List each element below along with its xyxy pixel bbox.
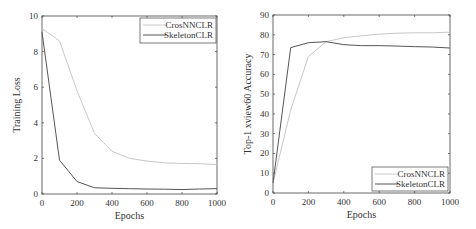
y-tick-label: 4 [34, 118, 39, 128]
y-tick-label: 0 [265, 188, 270, 198]
chart-1: 020040060080010000246810EpochsTraining L… [11, 11, 227, 221]
x-tick-label: 200 [302, 197, 316, 207]
series-line-crosnnclr [42, 28, 217, 164]
y-tick-label: 80 [260, 30, 270, 40]
y-tick-label: 10 [29, 11, 39, 21]
x-tick-label: 600 [372, 197, 386, 207]
y-tick-label: 50 [260, 89, 270, 99]
y-tick-label: 10 [260, 168, 270, 178]
x-tick-label: 400 [337, 197, 351, 207]
y-tick-label: 20 [260, 148, 270, 158]
legend-label: SkeletonCLR [396, 179, 445, 189]
chart-2: 020040060080010000102030405060708090Epoc… [242, 10, 460, 220]
y-tick-label: 40 [260, 109, 270, 119]
x-tick-label: 800 [408, 197, 422, 207]
x-tick-label: 1000 [208, 198, 227, 208]
x-axis-label: Epochs [115, 210, 145, 221]
x-tick-label: 0 [271, 197, 276, 207]
x-tick-label: 0 [40, 198, 45, 208]
y-axis-label: Training Loss [11, 77, 22, 133]
y-tick-label: 60 [260, 69, 270, 79]
y-tick-label: 30 [260, 129, 270, 139]
figure: 020040060080010000246810EpochsTraining L… [0, 0, 476, 229]
y-tick-label: 70 [260, 50, 270, 60]
legend-label: CrosNNCLR [165, 20, 213, 30]
plot-area [273, 15, 450, 193]
y-axis-label: Top-1 xview60 Accuracy [242, 54, 253, 155]
x-tick-label: 800 [175, 198, 189, 208]
y-tick-label: 6 [34, 82, 39, 92]
legend-label: CrosNNCLR [397, 169, 445, 179]
legend: CrosNNCLRSkeletonCLR [372, 167, 448, 191]
legend-label: SkeletonCLR [164, 30, 213, 40]
series-line-skeletonclr [273, 42, 450, 183]
y-tick-label: 2 [34, 153, 39, 163]
x-axis-label: Epochs [347, 209, 377, 220]
y-tick-label: 0 [34, 189, 39, 199]
series-line-crosnnclr [273, 32, 450, 183]
series-line-skeletonclr [42, 32, 217, 190]
x-tick-label: 200 [70, 198, 84, 208]
x-tick-label: 400 [105, 198, 119, 208]
legend: CrosNNCLRSkeletonCLR [140, 18, 216, 43]
x-tick-label: 1000 [441, 197, 460, 207]
y-tick-label: 90 [260, 10, 270, 20]
y-tick-label: 8 [34, 47, 39, 57]
x-tick-label: 600 [140, 198, 154, 208]
